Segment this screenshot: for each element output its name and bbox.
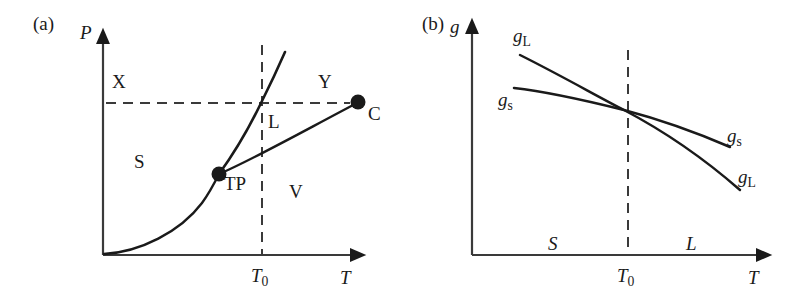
- panel-b-gibbs-energy-diagram: (b) g T T0 gL gs gs gL S L: [400, 0, 797, 308]
- gl-right-subscript: L: [748, 175, 756, 190]
- gl-left-subscript: L: [523, 34, 531, 49]
- curve-label-gs-left: gs: [498, 90, 513, 113]
- figure-container: (a) P T T0 X Y L S V TP C: [0, 0, 797, 308]
- region-label-liquid-b: L: [686, 234, 697, 253]
- t0-tick-label-a: T0: [251, 266, 268, 289]
- curve-label-gl-left: gL: [513, 26, 531, 49]
- t0-subscript-a: 0: [262, 274, 269, 289]
- region-label-vapor-a: V: [289, 182, 303, 201]
- gs-right-base: g: [727, 125, 737, 146]
- t-axis-label-b: T: [748, 268, 759, 287]
- panel-a-graphics: [0, 0, 400, 308]
- g-liquid-curve: [520, 55, 740, 190]
- panel-b-tag: (b): [422, 14, 444, 33]
- t-axis-label-a: T: [340, 268, 351, 287]
- critical-point-marker: [351, 95, 366, 110]
- panel-a-tag: (a): [33, 14, 54, 33]
- gs-left-base: g: [498, 89, 508, 110]
- panel-b-graphics: [400, 0, 797, 308]
- region-label-liquid-a: L: [268, 112, 280, 131]
- t0-base-a: T: [251, 265, 262, 286]
- curve-label-gl-right: gL: [738, 167, 756, 190]
- region-label-solid-a: S: [134, 152, 145, 171]
- t0-tick-label-b: T0: [617, 266, 634, 289]
- gl-left-base: g: [513, 25, 523, 46]
- vaporization-curve: [219, 103, 357, 174]
- isobar-y-label: Y: [318, 72, 332, 91]
- gs-left-subscript: s: [508, 98, 513, 113]
- critical-point-label: C: [368, 104, 381, 123]
- g-axis-label: g: [450, 17, 460, 36]
- curve-label-gs-right: gs: [727, 126, 742, 149]
- panel-a-phase-diagram: (a) P T T0 X Y L S V TP C: [0, 0, 400, 308]
- gl-right-base: g: [738, 166, 748, 187]
- t0-subscript-b: 0: [628, 274, 635, 289]
- gs-right-subscript: s: [737, 134, 742, 149]
- isobar-x-label: X: [112, 72, 126, 91]
- sublimation-curve: [104, 174, 219, 254]
- p-axis-label: P: [80, 23, 92, 42]
- triple-point-label: TP: [224, 174, 246, 193]
- region-label-solid-b: S: [548, 234, 558, 253]
- g-solid-curve: [514, 88, 730, 147]
- t0-base-b: T: [617, 265, 628, 286]
